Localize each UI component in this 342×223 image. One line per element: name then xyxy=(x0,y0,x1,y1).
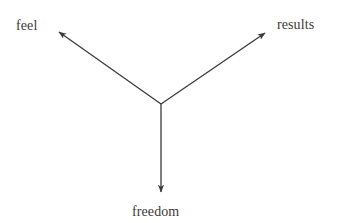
arrow-graphics xyxy=(0,0,342,223)
arrow-feel xyxy=(59,32,161,104)
label-feel: feel xyxy=(16,19,37,33)
label-freedom: freedom xyxy=(132,205,179,219)
label-results: results xyxy=(277,18,314,32)
arrow-results xyxy=(161,33,265,104)
diagram-canvas: feel results freedom xyxy=(0,0,342,223)
